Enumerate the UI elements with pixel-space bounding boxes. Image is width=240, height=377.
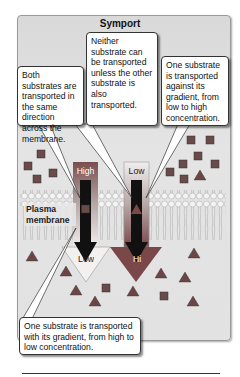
plasma-membrane-label: Plasma membrane [24, 203, 76, 226]
callout-coupled-transport-text: Neither substrate can be transported unl… [91, 36, 152, 110]
label-right-low: Low [124, 166, 149, 176]
callout-against-gradient-text: One substrate is transported against its… [166, 60, 220, 123]
label-right-hi: Hi [122, 254, 152, 264]
diagram-title: Symport [0, 18, 240, 29]
divider-line [22, 373, 220, 374]
callout-same-direction: Both substrates are transported in the s… [17, 66, 84, 126]
callout-against-gradient: One substrate is transported against its… [161, 56, 229, 126]
label-left-high: High [73, 166, 98, 176]
callout-with-gradient-text: One substrate is transported with its gr… [24, 321, 134, 352]
callout-with-gradient: One substrate is transported with its gr… [19, 317, 141, 355]
label-left-low: Low [70, 254, 102, 264]
callout-coupled-transport: Neither substrate can be transported unl… [86, 32, 158, 126]
